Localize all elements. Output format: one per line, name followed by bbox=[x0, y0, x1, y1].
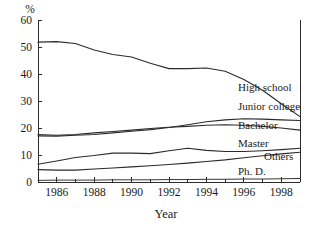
x-tick-label: 1990 bbox=[120, 186, 143, 198]
series-label-others: Others bbox=[264, 150, 293, 162]
y-tick-label: 20 bbox=[21, 122, 33, 134]
series-label-bachelor: Bachelor bbox=[238, 119, 278, 131]
y-tick-label: 10 bbox=[21, 149, 33, 161]
series-label-junior-college: Junior college bbox=[238, 100, 300, 112]
chart-canvas: % 0102030405060 198619881990199219941996… bbox=[0, 0, 316, 231]
y-tick-label: 50 bbox=[21, 41, 33, 53]
x-tick-label: 1986 bbox=[45, 186, 68, 198]
x-tick-label: 1988 bbox=[83, 186, 106, 198]
y-tick-label: 40 bbox=[21, 68, 33, 80]
x-tick-label: 1998 bbox=[270, 186, 293, 198]
x-tick-label: 1994 bbox=[195, 186, 218, 198]
series-label-master: Master bbox=[238, 137, 269, 149]
series-label-ph-d: Ph. D. bbox=[238, 165, 266, 177]
x-tick-label: 1996 bbox=[232, 186, 255, 198]
x-tick-label: 1992 bbox=[158, 186, 181, 198]
y-tick-label: 60 bbox=[21, 14, 33, 26]
y-tick-label: 30 bbox=[21, 95, 33, 107]
line-chart: % 0102030405060 198619881990199219941996… bbox=[0, 0, 316, 231]
series-label-high-school: High school bbox=[238, 81, 291, 93]
x-axis-title: Year bbox=[154, 207, 178, 221]
y-tick-label: 0 bbox=[26, 176, 32, 188]
